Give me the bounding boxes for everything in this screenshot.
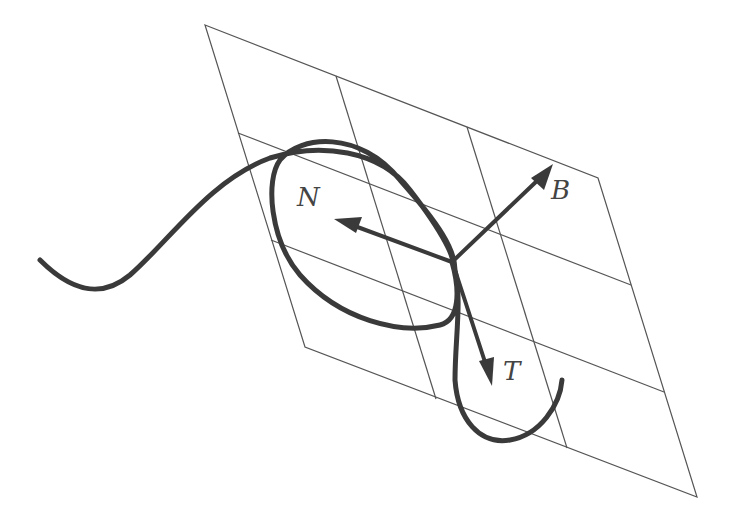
grid-line xyxy=(271,240,664,392)
binormal-arrow-shaft xyxy=(452,178,540,262)
binormal-label: B xyxy=(550,175,570,205)
frenet-frame-diagram: N B T xyxy=(0,0,730,520)
binormal-vector xyxy=(452,164,553,262)
tangent-arrow-head xyxy=(479,357,494,386)
normal-arrow-head xyxy=(334,217,362,233)
tangent-vector xyxy=(455,270,494,386)
tangent-label: T xyxy=(503,356,522,386)
normal-label: N xyxy=(296,182,321,212)
